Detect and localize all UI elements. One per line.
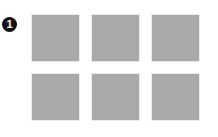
image-placeholder-tile — [152, 15, 199, 61]
image-placeholder-tile — [32, 15, 79, 61]
image-placeholder-tile — [152, 74, 199, 120]
image-placeholder-tile — [32, 74, 79, 120]
image-placeholder-tile — [92, 74, 139, 120]
image-placeholder-tile — [92, 15, 139, 61]
step-number-badge: 1 — [2, 17, 17, 32]
